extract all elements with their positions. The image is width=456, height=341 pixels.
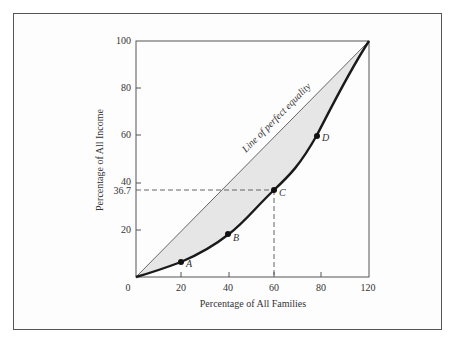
y-tick-60: 60: [121, 129, 131, 140]
point-a-label: A: [185, 258, 193, 269]
lorenz-chart: A B C D Line of perfect equality 100 80 …: [0, 0, 456, 341]
x-tick-0: 0: [126, 282, 131, 293]
y-tick-36-7: 36.7: [114, 185, 132, 196]
point-a: [178, 259, 184, 265]
point-b-label: B: [233, 232, 239, 243]
point-d-label: D: [321, 132, 330, 143]
x-tick-80: 80: [316, 282, 326, 293]
x-tick-40: 40: [223, 282, 233, 293]
y-tick-20: 20: [121, 224, 131, 235]
point-b: [225, 231, 231, 237]
x-axis-ticks: [181, 272, 321, 277]
y-tick-80: 80: [121, 82, 131, 93]
x-tick-60: 60: [269, 282, 279, 293]
equality-line: [136, 41, 369, 277]
point-c: [271, 187, 277, 193]
x-axis-title: Percentage of All Families: [200, 298, 306, 309]
point-c-label: C: [279, 187, 286, 198]
y-tick-100: 100: [116, 35, 131, 46]
y-axis-title: Percentage of All Income: [94, 108, 105, 210]
y-axis-ticks: [136, 88, 141, 230]
point-d: [314, 133, 320, 139]
x-tick-20: 20: [176, 282, 186, 293]
x-tick-120: 120: [361, 282, 376, 293]
